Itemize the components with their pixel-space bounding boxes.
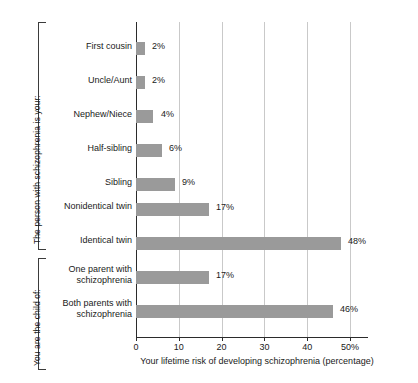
category-label-text-line2: schizophrenia xyxy=(76,309,132,319)
bar-value-uncle-aunt: 2% xyxy=(152,75,165,85)
bar-sibling xyxy=(136,178,175,191)
x-axis-line xyxy=(136,337,368,338)
bar-nonidentical-twin xyxy=(136,203,209,216)
category-label-identical-twin: Identical twin xyxy=(40,235,132,246)
bar-first-cousin xyxy=(136,42,145,55)
category-label-nephew-niece: Nephew/Niece xyxy=(40,109,132,120)
x-tick-label-10: 10 xyxy=(174,342,184,352)
x-tick-30 xyxy=(264,337,265,341)
category-label-text-line2: schizophrenia xyxy=(76,275,132,285)
category-label-sibling: Sibling xyxy=(40,177,132,188)
bar-identical-twin xyxy=(136,237,341,250)
category-label-text: Identical twin xyxy=(80,235,132,245)
category-label-one-parent: One parent with schizophrenia xyxy=(40,264,132,285)
category-label-half-sibling: Half-sibling xyxy=(40,143,132,154)
schizophrenia-risk-bar-chart: The person with schizophrenia is your: Y… xyxy=(0,0,418,383)
x-tick-10 xyxy=(179,337,180,341)
bar-value-half-sibling: 6% xyxy=(169,143,182,153)
category-label-nonidentical-twin: Nonidentical twin xyxy=(40,201,132,212)
category-label-text: Nonidentical twin xyxy=(64,201,132,211)
x-tick-label-40: 40 xyxy=(302,342,312,352)
x-axis-title: Your lifetime risk of developing schizop… xyxy=(44,356,373,366)
bar-value-sibling: 9% xyxy=(182,177,195,187)
bar-value-first-cousin: 2% xyxy=(152,41,165,51)
category-label-text: Both parents with xyxy=(62,298,132,308)
category-label-uncle-aunt: Uncle/Aunt xyxy=(40,75,132,86)
x-tick-label-50: 50% xyxy=(341,342,359,352)
gridline-30 xyxy=(264,22,265,337)
category-label-text: Sibling xyxy=(105,177,132,187)
category-label-text: Half-sibling xyxy=(87,143,132,153)
gridline-10 xyxy=(179,22,180,337)
bar-both-parents xyxy=(136,305,333,318)
bar-half-sibling xyxy=(136,144,162,157)
bar-value-nephew-niece: 4% xyxy=(161,109,174,119)
gridline-50 xyxy=(350,22,351,337)
category-label-both-parents: Both parents with schizophrenia xyxy=(40,298,132,319)
x-tick-0 xyxy=(136,337,137,341)
category-label-text: First cousin xyxy=(86,41,132,51)
category-label-text: Nephew/Niece xyxy=(73,109,132,119)
x-tick-20 xyxy=(222,337,223,341)
x-axis-title-wrapper: Your lifetime risk of developing schizop… xyxy=(0,356,418,366)
gridline-40 xyxy=(307,22,308,337)
bar-value-one-parent: 17% xyxy=(216,270,234,280)
x-tick-50 xyxy=(350,337,351,341)
bar-value-nonidentical-twin: 17% xyxy=(216,202,234,212)
plot-area: 0 10 20 30 40 50% 2% 2% 4% 6% 9% 17% 48%… xyxy=(136,22,366,337)
category-label-first-cousin: First cousin xyxy=(40,41,132,52)
bar-nephew-niece xyxy=(136,110,153,123)
bar-value-both-parents: 46% xyxy=(340,304,358,314)
x-tick-label-0: 0 xyxy=(133,342,138,352)
bar-one-parent xyxy=(136,271,209,284)
bar-uncle-aunt xyxy=(136,76,145,89)
category-label-text: One parent with xyxy=(68,264,132,274)
x-tick-label-30: 30 xyxy=(259,342,269,352)
x-tick-label-20: 20 xyxy=(217,342,227,352)
bar-value-identical-twin: 48% xyxy=(348,236,366,246)
x-tick-40 xyxy=(307,337,308,341)
category-label-text: Uncle/Aunt xyxy=(88,75,132,85)
gridline-20 xyxy=(222,22,223,337)
